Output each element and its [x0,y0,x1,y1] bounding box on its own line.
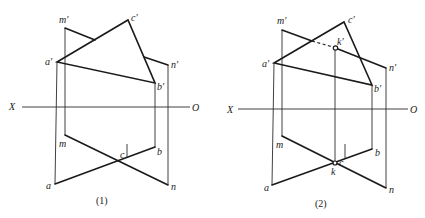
axis-label-x: X [8,101,16,112]
line-mn-front-visible-2 [338,49,386,68]
axis-label-o: O [410,104,417,115]
line-mn-front-visible-1 [65,28,95,40]
axis-label-x: X [226,104,234,115]
label-c-prime: c′ [348,14,355,25]
projector-a [55,62,57,184]
label-b-prime: b′ [374,83,382,94]
label-b: b [375,147,380,158]
line-mn-front-visible-1 [282,30,312,41]
label-n: n [389,184,394,195]
label-b-prime: b′ [157,81,165,92]
label-k: k [331,166,336,177]
caption-2: (2) [315,198,327,210]
label-k-prime: k′ [337,36,344,47]
diagram-stage: X O m′ c′ a′ n′ b′ m c b a n (1) X O [0,0,425,218]
label-b: b [157,146,162,157]
label-m-prime: m′ [277,15,287,26]
line-ab-top [272,149,372,185]
triangle-abc-front [57,20,155,83]
label-a: a [46,180,51,191]
figure-1: X O m′ c′ a′ n′ b′ m c b a n (1) [8,12,199,207]
label-n-prime: n′ [389,62,397,73]
label-a: a [264,182,269,193]
line-mn-front-hidden [312,41,333,47]
label-n-prime: n′ [171,59,179,70]
label-m-prime: m′ [59,14,69,25]
label-n: n [171,181,176,192]
projector-a [272,63,274,185]
point-k-marker [333,161,337,165]
caption-1: (1) [96,195,108,207]
label-m: m [59,138,66,149]
axis-label-o: O [192,102,199,113]
label-c: c [339,157,344,168]
label-a-prime: a′ [45,56,53,67]
label-c: c [120,149,125,160]
label-m: m [276,139,283,150]
line-mn-top [65,135,168,185]
triangle-abc-front [274,22,372,85]
line-ab-top [55,147,155,184]
figure-2: X O m′ c′ k′ a′ n′ b′ m c k b a n (2) [226,14,417,210]
projection-diagrams: X O m′ c′ a′ n′ b′ m c b a n (1) X O [0,0,425,218]
label-c-prime: c′ [131,12,138,23]
label-a-prime: a′ [262,58,270,69]
